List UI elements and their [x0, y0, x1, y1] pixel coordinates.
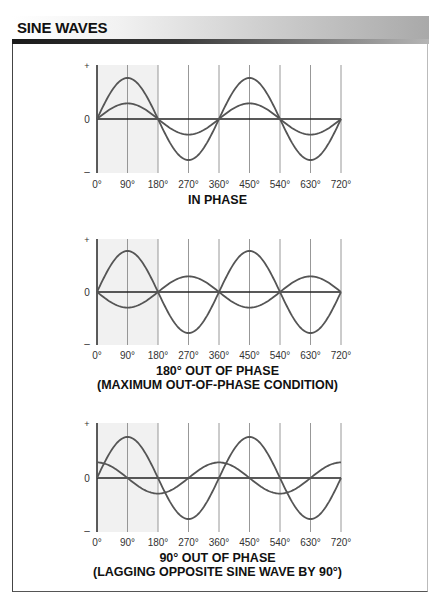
- x-tick-label: 540°: [270, 537, 291, 548]
- caption-line1: 90° OUT OF PHASE: [0, 551, 435, 565]
- x-tick-label: 0°: [92, 350, 102, 361]
- x-tick-label: 180°: [148, 350, 169, 361]
- x-tick-label: 360°: [209, 350, 230, 361]
- x-tick-label: 540°: [270, 350, 291, 361]
- x-tick-label: 720°: [331, 350, 352, 361]
- caption-90-out-of-phase: 90° OUT OF PHASE (LAGGING OPPOSITE SINE …: [0, 551, 435, 579]
- axis-label: +: [84, 419, 89, 429]
- sine-wave-plots: +0–0°90°180°270°360°450°540°630°720°+0–0…: [0, 0, 435, 599]
- axis-label: –: [84, 525, 90, 536]
- x-tick-label: 270°: [178, 537, 199, 548]
- x-tick-label: 90°: [120, 350, 135, 361]
- x-tick-label: 270°: [178, 179, 199, 190]
- x-tick-label: 360°: [209, 537, 230, 548]
- caption-line2: (LAGGING OPPOSITE SINE WAVE BY 90°): [0, 565, 435, 579]
- axis-label: 0: [84, 114, 90, 125]
- x-tick-label: 630°: [300, 537, 321, 548]
- x-tick-label: 540°: [270, 179, 291, 190]
- axis-label: 0: [84, 473, 90, 484]
- caption-line1: 180° OUT OF PHASE: [0, 364, 435, 378]
- x-tick-label: 90°: [120, 537, 135, 548]
- x-tick-label: 450°: [239, 537, 260, 548]
- x-tick-label: 720°: [331, 179, 352, 190]
- x-tick-label: 450°: [239, 179, 260, 190]
- axis-label: –: [84, 338, 90, 349]
- x-tick-label: 0°: [92, 537, 102, 548]
- x-tick-label: 0°: [92, 179, 102, 190]
- axis-label: –: [84, 166, 90, 177]
- x-tick-label: 630°: [300, 179, 321, 190]
- x-tick-label: 180°: [148, 537, 169, 548]
- x-tick-label: 450°: [239, 350, 260, 361]
- axis-label: 0: [84, 287, 90, 298]
- caption-line1: IN PHASE: [0, 193, 435, 207]
- x-tick-label: 270°: [178, 350, 199, 361]
- x-tick-label: 360°: [209, 179, 230, 190]
- x-tick-label: 720°: [331, 537, 352, 548]
- caption-in-phase: IN PHASE: [0, 193, 435, 207]
- x-tick-label: 630°: [300, 350, 321, 361]
- x-tick-label: 180°: [148, 179, 169, 190]
- axis-label: +: [84, 61, 89, 71]
- x-tick-label: 90°: [120, 179, 135, 190]
- axis-label: +: [84, 235, 89, 245]
- caption-line2: (MAXIMUM OUT-OF-PHASE CONDITION): [0, 378, 435, 392]
- caption-180-out-of-phase: 180° OUT OF PHASE (MAXIMUM OUT-OF-PHASE …: [0, 364, 435, 392]
